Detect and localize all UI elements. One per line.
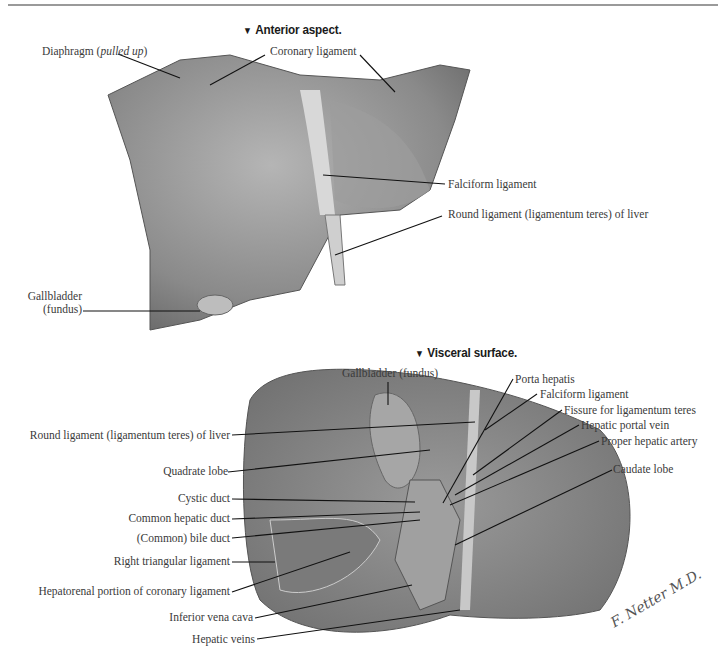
- label-cystic-duct: Cystic duct: [0, 492, 230, 505]
- label-common-hepatic-duct: Common hepatic duct: [0, 512, 230, 525]
- anterior-liver: [108, 55, 470, 330]
- label-round-ligament-visceral: Round ligament (ligamentum teres) of liv…: [0, 429, 230, 442]
- liver-illustration: [0, 0, 723, 670]
- label-porta-hepatis: Porta hepatis: [515, 373, 575, 386]
- label-fissure-ligamentum-teres: Fissure for ligamentum teres: [564, 404, 696, 417]
- label-hepatorenal-portion: Hepatorenal portion of coronary ligament: [0, 585, 230, 598]
- label-proper-hepatic-artery: Proper hepatic artery: [601, 435, 697, 448]
- label-common-bile-duct: (Common) bile duct: [0, 532, 230, 545]
- label-coronary-ligament: Coronary ligament: [270, 45, 357, 58]
- triangle-bullet-icon: ▼: [415, 348, 424, 359]
- label-right-triangular-ligament: Right triangular ligament: [0, 555, 230, 568]
- section-heading-visceral: ▼Visceral surface.: [415, 345, 517, 360]
- label-inferior-vena-cava: Inferior vena cava: [0, 611, 253, 624]
- label-falciform-ligament: Falciform ligament: [448, 178, 536, 191]
- label-diaphragm: Diaphragm (pulled up): [42, 45, 147, 58]
- label-falciform-ligament-visceral: Falciform ligament: [540, 388, 628, 401]
- label-hepatic-portal-vein: Hepatic portal vein: [581, 419, 669, 432]
- section-heading-anterior: ▼Anterior aspect.: [243, 22, 342, 37]
- label-hepatic-veins: Hepatic veins: [0, 633, 255, 646]
- triangle-bullet-icon: ▼: [243, 25, 252, 36]
- label-round-ligament: Round ligament (ligamentum teres) of liv…: [448, 208, 648, 221]
- label-caudate-lobe: Caudate lobe: [613, 463, 673, 476]
- label-gallbladder-fundus-visceral: Gallbladder (fundus): [342, 367, 438, 380]
- label-quadrate-lobe: Quadrate lobe: [0, 465, 228, 478]
- label-gallbladder-fundus: Gallbladder (fundus): [26, 290, 82, 316]
